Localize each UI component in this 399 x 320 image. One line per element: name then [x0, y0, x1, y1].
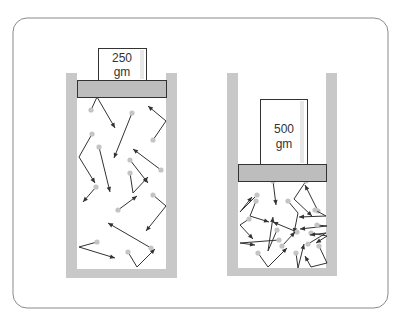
molecule-dot [312, 207, 317, 212]
molecule-dot [150, 137, 155, 142]
molecule-dot [94, 239, 99, 244]
molecule-dot [276, 237, 281, 242]
molecule-dot [253, 198, 258, 203]
molecule-dot [127, 170, 132, 175]
molecule-dot [148, 245, 153, 250]
piston-right [239, 165, 327, 182]
molecule-dot [293, 250, 298, 255]
molecule-dot [89, 131, 94, 136]
molecule-dot [314, 222, 319, 227]
weight-left-value: 250 [112, 51, 132, 65]
molecule-dot [254, 192, 259, 197]
molecule-dot [93, 184, 98, 189]
molecule-dot [127, 157, 132, 162]
molecule-dot [129, 110, 134, 115]
piston-left [78, 81, 167, 98]
molecule-dot [158, 167, 163, 172]
molecule-dot [294, 229, 299, 234]
cylinder-left-base [66, 269, 177, 278]
molecule-dot [125, 249, 130, 254]
weight-right-unit: gm [276, 137, 293, 151]
weight-right-value: 500 [274, 122, 294, 136]
molecule-dot [88, 107, 93, 112]
molecule-dot [246, 216, 251, 221]
cylinder-left-wall-right [166, 73, 177, 278]
cylinder-right-base [227, 268, 337, 276]
molecule-dot [255, 250, 260, 255]
molecule-dot [316, 243, 321, 248]
molecule-dot [279, 243, 284, 248]
molecule-dot [96, 144, 101, 149]
molecule-dot [285, 198, 290, 203]
cylinder-right-wall-left [227, 73, 238, 276]
molecule-dot [274, 227, 279, 232]
molecule-dot [150, 192, 155, 197]
molecule-dot [305, 241, 310, 246]
cylinder-right-wall-right [326, 73, 337, 276]
gas-pressure-diagram: 250 gm 500 gm [0, 0, 399, 320]
weight-left-unit: gm [114, 65, 131, 79]
molecule-dot [115, 207, 120, 212]
cylinder-left-wall-left [66, 73, 77, 278]
